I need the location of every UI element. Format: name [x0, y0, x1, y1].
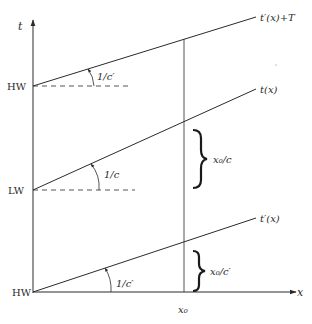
- angle-arc-middle: [91, 164, 99, 190]
- slope-label-top: 1/c′: [97, 71, 115, 82]
- brace-label-middle: x₀/c: [213, 154, 232, 165]
- stray-dot: [275, 64, 276, 65]
- tide-phase-diagram: t x HW LW HW t′(x)+T t(x) t′(x) 1/c′ 1/c…: [0, 0, 312, 324]
- brace-label-bottom: x₀/c′: [210, 266, 232, 277]
- angle-arc-bottom: [105, 268, 111, 292]
- line-t-prime: [33, 218, 256, 292]
- label-t-prime-plus-T: t′(x)+T: [260, 12, 296, 23]
- t-axis-label: t: [18, 20, 23, 33]
- angle-arc-top: [88, 69, 94, 86]
- tick-hw-bottom: HW: [12, 287, 32, 298]
- slope-label-middle: 1/c: [104, 169, 120, 180]
- tick-hw-top: HW: [7, 81, 27, 92]
- x-axis-label: x: [297, 286, 304, 299]
- x0-label: x₀: [178, 304, 188, 315]
- slope-label-bottom: 1/c′: [116, 278, 134, 289]
- line-t: [33, 89, 256, 190]
- label-t: t(x): [260, 84, 278, 95]
- line-t-prime-plus-T: [33, 17, 256, 86]
- tick-lw: LW: [8, 185, 25, 196]
- label-t-prime: t′(x): [260, 213, 280, 224]
- brace-bottom: [193, 251, 205, 291]
- brace-middle: [193, 130, 207, 188]
